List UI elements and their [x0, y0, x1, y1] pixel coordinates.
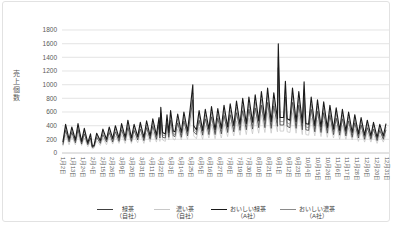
x-tick-label: 11月17日 — [343, 157, 350, 181]
legend-label: おいしい緑茶 — [230, 206, 266, 213]
x-tick-label: 11月6日 — [334, 157, 341, 178]
x-tick-label: 12月31日 — [383, 157, 390, 181]
x-tick-label: 7月8日 — [226, 157, 233, 175]
x-tick-label: 3月9日 — [118, 157, 125, 175]
x-tick-label: 9月1日 — [275, 157, 282, 175]
legend-line-swatch — [97, 209, 113, 210]
y-tick-label: 400 — [46, 122, 57, 129]
x-tick-label: 6月16日 — [206, 157, 213, 178]
x-tick-label: 11月28日 — [353, 157, 360, 181]
legend-line-swatch — [211, 209, 227, 210]
legend-line-swatch — [154, 209, 170, 210]
x-tick-label: 3月20日 — [128, 157, 135, 178]
y-tick-label: 800 — [46, 95, 57, 102]
legend-label: 緑茶 — [116, 206, 140, 213]
x-tick-label: 12月20日 — [373, 157, 380, 181]
x-tick-label: 4月22日 — [157, 157, 164, 178]
y-tick-label: 1200 — [43, 67, 58, 74]
x-tick-label: 1月24日 — [79, 157, 86, 178]
legend-company: （A社） — [299, 213, 335, 220]
x-tick-label: 3月31日 — [138, 157, 145, 178]
x-tick-label: 2月26日 — [108, 157, 115, 178]
legend-company: （自社） — [116, 213, 140, 220]
y-tick-label: 1600 — [43, 40, 58, 47]
x-tick-label: 9月12日 — [285, 157, 292, 178]
y-axis-title: 売上個数 — [11, 70, 21, 102]
plot-area: 0200400600800100012001400160018001月2日1月1… — [0, 0, 394, 227]
x-tick-label: 8月21日 — [265, 157, 272, 178]
y-tick-label: 1800 — [43, 26, 58, 33]
x-tick-label: 7月19日 — [236, 157, 243, 178]
legend-item-oishii-ryokucha[interactable]: おいしい緑茶 （A社） — [211, 206, 266, 220]
x-tick-label: 12月9日 — [363, 157, 370, 178]
excel-line-chart-screenshot: { "chart_data": { "type": "line", "ylabe… — [0, 0, 394, 227]
x-tick-label: 5月14日 — [177, 157, 184, 178]
x-tick-label: 5月25日 — [187, 157, 194, 178]
y-tick-label: 200 — [46, 136, 57, 143]
x-tick-label: 10月15日 — [314, 157, 321, 181]
x-tick-label: 2月4日 — [89, 157, 96, 175]
y-tick-label: 0 — [53, 149, 57, 156]
x-tick-label: 5月3日 — [167, 157, 174, 175]
legend-label: 濃い茶 — [173, 206, 197, 213]
x-tick-label: 4月11日 — [148, 157, 155, 178]
legend-label: おいしい濃茶 — [299, 206, 335, 213]
x-tick-label: 6月5日 — [197, 157, 204, 175]
x-tick-label: 8月10日 — [255, 157, 262, 178]
legend: 緑茶 （自社） 濃い茶 （自社） おいしい緑茶 （A社） おいしい濃茶 （A社） — [46, 206, 386, 220]
y-tick-label: 1000 — [43, 81, 58, 88]
legend-company: （自社） — [173, 213, 197, 220]
x-tick-label: 10月4日 — [304, 157, 311, 178]
legend-line-swatch — [280, 209, 296, 210]
x-tick-label: 9月23日 — [294, 157, 301, 178]
x-tick-label: 7月30日 — [245, 157, 252, 178]
x-tick-label: 6月27日 — [216, 157, 223, 178]
legend-item-oishii-koicha[interactable]: おいしい濃茶 （A社） — [280, 206, 335, 220]
y-tick-label: 1400 — [43, 54, 58, 61]
legend-item-koicha[interactable]: 濃い茶 （自社） — [154, 206, 197, 220]
y-tick-label: 600 — [46, 108, 57, 115]
x-tick-label: 1月13日 — [69, 157, 76, 178]
x-tick-label: 1月2日 — [59, 157, 66, 175]
x-tick-label: 2月15日 — [99, 157, 106, 178]
legend-item-ryokucha[interactable]: 緑茶 （自社） — [97, 206, 140, 220]
x-tick-label: 10月26日 — [324, 157, 331, 181]
legend-company: （A社） — [230, 213, 266, 220]
